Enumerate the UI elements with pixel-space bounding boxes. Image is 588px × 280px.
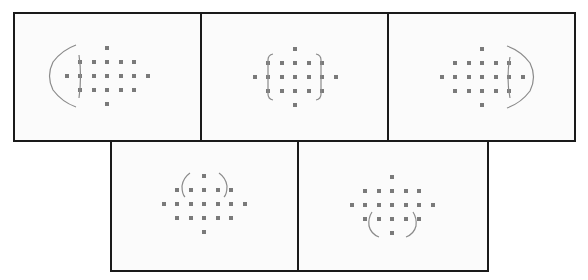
af-point — [293, 47, 297, 51]
af-point — [440, 75, 444, 79]
af-point — [293, 75, 297, 79]
af-point — [467, 61, 471, 65]
af-point — [417, 203, 421, 207]
af-point — [132, 60, 136, 64]
panel-4-frame — [110, 140, 299, 272]
af-point — [320, 89, 324, 93]
af-point — [92, 60, 96, 64]
af-point — [494, 89, 498, 93]
af-point — [307, 61, 311, 65]
af-point — [175, 216, 179, 220]
af-point — [293, 103, 297, 107]
af-point — [216, 216, 220, 220]
af-point — [453, 75, 457, 79]
af-point — [243, 202, 247, 206]
af-point — [229, 202, 233, 206]
af-point — [390, 203, 394, 207]
af-point — [202, 174, 206, 178]
af-point — [377, 203, 381, 207]
af-point — [363, 203, 367, 207]
af-point — [480, 89, 484, 93]
af-point — [494, 61, 498, 65]
af-point — [307, 89, 311, 93]
af-point — [78, 88, 82, 92]
af-point — [92, 74, 96, 78]
af-point — [105, 88, 109, 92]
af-point — [78, 60, 82, 64]
af-point — [280, 75, 284, 79]
af-point — [417, 189, 421, 193]
af-point — [92, 88, 96, 92]
af-point — [377, 189, 381, 193]
af-point — [189, 188, 193, 192]
af-point — [521, 75, 525, 79]
af-point — [202, 188, 206, 192]
af-point — [390, 175, 394, 179]
af-point — [480, 75, 484, 79]
af-point — [453, 89, 457, 93]
af-point — [390, 217, 394, 221]
af-point — [507, 89, 511, 93]
af-point — [507, 61, 511, 65]
af-point — [132, 88, 136, 92]
af-point — [307, 75, 311, 79]
af-point — [293, 61, 297, 65]
af-point — [280, 89, 284, 93]
af-point — [480, 103, 484, 107]
af-point — [78, 74, 82, 78]
af-point — [105, 102, 109, 106]
af-point — [467, 75, 471, 79]
af-point — [467, 89, 471, 93]
af-point — [119, 60, 123, 64]
af-point — [453, 61, 457, 65]
af-point — [320, 75, 324, 79]
af-point — [253, 75, 257, 79]
af-point — [280, 61, 284, 65]
af-point — [480, 47, 484, 51]
af-point — [404, 203, 408, 207]
af-point — [189, 216, 193, 220]
af-point — [175, 188, 179, 192]
af-point — [175, 202, 179, 206]
af-point — [350, 203, 354, 207]
af-point — [202, 202, 206, 206]
af-point — [377, 217, 381, 221]
af-point — [146, 74, 150, 78]
af-point — [507, 75, 511, 79]
af-point — [266, 61, 270, 65]
af-point — [431, 203, 435, 207]
af-point — [266, 75, 270, 79]
af-point — [119, 88, 123, 92]
af-point — [105, 74, 109, 78]
af-point — [119, 74, 123, 78]
af-point — [480, 61, 484, 65]
af-point — [404, 189, 408, 193]
af-point — [494, 75, 498, 79]
af-point — [216, 188, 220, 192]
af-point — [216, 202, 220, 206]
af-point — [390, 189, 394, 193]
af-point — [105, 46, 109, 50]
af-point — [229, 216, 233, 220]
af-point — [417, 217, 421, 221]
af-point — [363, 189, 367, 193]
af-point — [65, 74, 69, 78]
af-point — [266, 89, 270, 93]
af-point — [334, 75, 338, 79]
af-point — [404, 217, 408, 221]
af-point — [162, 202, 166, 206]
af-point — [202, 216, 206, 220]
af-point — [293, 89, 297, 93]
af-point — [132, 74, 136, 78]
af-point — [229, 188, 233, 192]
af-point — [189, 202, 193, 206]
af-point — [363, 217, 367, 221]
af-point — [390, 231, 394, 235]
af-point — [105, 60, 109, 64]
af-point — [202, 230, 206, 234]
af-point — [320, 61, 324, 65]
